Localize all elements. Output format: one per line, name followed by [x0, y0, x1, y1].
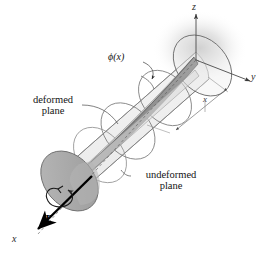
deformed-plane-label-line1: deformed	[22, 94, 84, 105]
angle-of-twist-label: ϕ(x)	[108, 52, 124, 63]
undeformed-leader	[121, 170, 131, 176]
deformed-plane-label: deformed plane	[22, 94, 84, 116]
z-axis-label: z	[192, 2, 196, 13]
y-axis-label: y	[251, 72, 255, 83]
undeformed-plane-label: undeformed plane	[135, 169, 207, 191]
undeformed-plane-label-line1: undeformed	[135, 169, 207, 180]
undeformed-plane-label-line2: plane	[135, 180, 207, 191]
torsion-shaft-figure: z y x x ϕ(x) deformed plane undeformed p…	[0, 0, 267, 253]
deformed-plane-label-line2: plane	[22, 105, 84, 116]
torque-label: T	[44, 213, 51, 225]
distance-x-label: x	[203, 95, 207, 104]
torsion-diagram-svg	[0, 0, 267, 253]
deformed-leader	[82, 105, 118, 124]
x-axis-label: x	[12, 234, 16, 245]
